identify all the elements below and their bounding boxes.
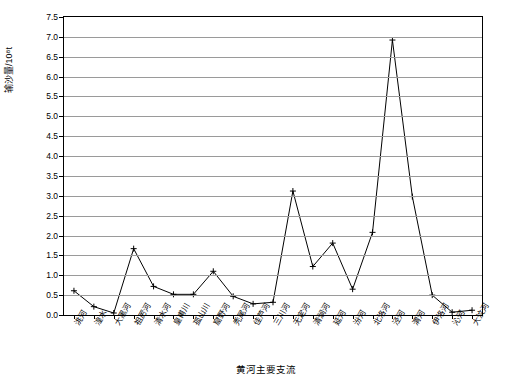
y-axis-tick-mark [59,176,63,177]
y-axis-tick-label: 5.5 [28,91,58,101]
gridline [64,176,482,177]
y-axis-tick-label: 1.5 [28,250,58,260]
y-axis-tick-label: 7.0 [28,32,58,42]
gridline [64,275,482,276]
y-axis-tick-mark [59,156,63,157]
y-axis-tick-label: 3.5 [28,171,58,181]
gridline [64,37,482,38]
plot-area [63,16,483,316]
y-axis-tick-label: 6.0 [28,72,58,82]
y-axis-tick-label: 1.0 [28,270,58,280]
y-axis-tick-mark [59,17,63,18]
y-axis-tick-mark [59,216,63,217]
data-point-marker [131,246,137,252]
y-axis-tick-label: 3.0 [28,191,58,201]
y-axis-tick-label: 4.5 [28,131,58,141]
y-axis-tick-mark [59,236,63,237]
gridline [64,156,482,157]
y-axis-tick-mark [59,295,63,296]
data-point-marker [350,286,356,292]
gridline [64,236,482,237]
chart-container: 输沙量/10⁸t 黄河主要支流 0.00.51.01.52.02.53.03.5… [0,0,532,378]
data-point-marker [151,283,157,289]
y-axis-tick-mark [59,275,63,276]
y-axis-title: 输沙量/10⁸t [2,20,15,120]
gridline [64,116,482,117]
y-axis-tick-label: 0.0 [28,310,58,320]
data-point-marker [290,188,296,194]
data-point-marker [389,37,395,43]
y-axis-tick-label: 4.0 [28,151,58,161]
gridline [64,196,482,197]
y-axis-tick-label: 2.5 [28,211,58,221]
y-axis-tick-mark [59,196,63,197]
y-axis-tick-label: 7.5 [28,12,58,22]
y-axis-tick-label: 6.5 [28,52,58,62]
y-axis-tick-mark [59,96,63,97]
y-axis-tick-mark [59,116,63,117]
y-axis-tick-mark [59,57,63,58]
gridline [64,96,482,97]
data-series-line [64,17,482,315]
gridline [64,57,482,58]
gridline [64,216,482,217]
y-axis-tick-label: 2.0 [28,231,58,241]
y-axis-tick-mark [59,136,63,137]
y-axis-tick-mark [59,77,63,78]
y-axis-tick-mark [59,315,63,316]
y-axis-tick-label: 0.5 [28,290,58,300]
y-axis-tick-label: 5.0 [28,111,58,121]
x-axis-title: 黄河主要支流 [0,362,532,376]
gridline [64,255,482,256]
gridline [64,77,482,78]
gridline [64,136,482,137]
gridline [64,295,482,296]
y-axis-tick-mark [59,37,63,38]
y-axis-tick-mark [59,255,63,256]
data-point-marker [370,229,376,235]
